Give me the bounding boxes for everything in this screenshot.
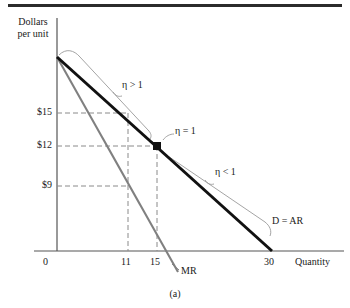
inelastic-brace-pointer: [205, 180, 214, 184]
demand-average-revenue-line: [57, 57, 272, 251]
y-tick-label-9: $9: [22, 180, 52, 190]
x-axis-title: Quantity: [295, 257, 330, 267]
marginal-revenue-label: MR: [181, 266, 197, 276]
y-tick-label-15: $15: [22, 107, 52, 117]
x-tick-label-11: 11: [121, 257, 131, 267]
unit-elastic-pointer: [163, 134, 174, 140]
annotation-elastic-region: η > 1: [122, 80, 143, 90]
unit-elastic-point-marker: [153, 142, 161, 150]
demand-curve-label: D = AR: [272, 216, 303, 226]
y-tick-label-12: $12: [22, 140, 52, 150]
annotation-unit-elastic: η = 1: [175, 126, 196, 136]
x-tick-label-30: 30: [264, 257, 274, 267]
demand-curve-label-rest: = AR: [282, 215, 303, 226]
elastic-brace-pointer: [113, 92, 122, 96]
figure-caption: (a): [0, 288, 350, 299]
x-tick-label-15: 15: [150, 257, 160, 267]
x-tick-label-0: 0: [43, 257, 48, 267]
annotation-inelastic-region: η < 1: [215, 167, 236, 177]
marginal-revenue-line: [57, 57, 178, 272]
figure-page: Dollars per unit: [0, 0, 350, 308]
elastic-region-brace: [59, 51, 151, 139]
demand-curve-label-d: D: [272, 215, 279, 226]
inelastic-region-brace: [152, 141, 271, 236]
